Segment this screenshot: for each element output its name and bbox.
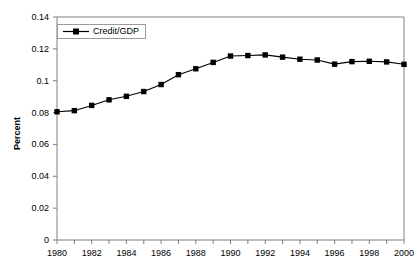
y-tick-label: 0.12 — [0, 44, 49, 54]
axes-frame — [57, 17, 404, 240]
y-tick-label: 0.08 — [0, 108, 49, 118]
y-tick-label: 0.06 — [0, 139, 49, 149]
series-credit-gdp-markers — [54, 52, 406, 114]
y-tick-label: 0.1 — [0, 76, 49, 86]
y-tick-label: 0.04 — [0, 171, 49, 181]
legend-marker-icon — [63, 27, 89, 36]
legend-entry-label: Credit/GDP — [93, 26, 139, 36]
x-axis-ticks — [57, 240, 404, 244]
x-tick-label: 2000 — [384, 248, 419, 258]
line-chart-plot — [0, 0, 419, 275]
chart-legend: Credit/GDP — [57, 24, 146, 39]
y-tick-label: 0.02 — [0, 203, 49, 213]
y-tick-label: 0.14 — [0, 12, 49, 22]
y-tick-label: 0 — [0, 235, 49, 245]
y-axis-ticks — [53, 17, 57, 240]
chart-figure: Percent 00.020.040.060.080.10.120.14 198… — [0, 0, 419, 275]
